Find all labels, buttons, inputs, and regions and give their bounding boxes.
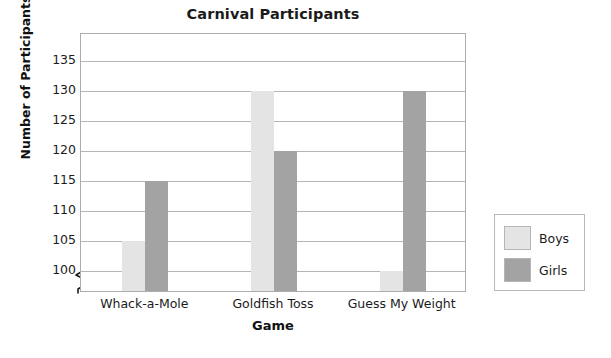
bar-girls-2 [403, 91, 426, 292]
plot-area [80, 33, 466, 292]
legend-item-girls: Girls [504, 258, 567, 282]
y-tick-label: 100 [42, 264, 76, 277]
bar-girls-1 [274, 151, 297, 292]
y-tick-label: 130 [42, 84, 76, 97]
bar-boys-1 [251, 91, 274, 292]
legend-swatch-girls [504, 258, 531, 282]
bar-girls-0 [145, 181, 168, 292]
x-tick-label: Goldfish Toss [232, 296, 313, 311]
gridline [81, 61, 465, 62]
bar-chart: Carnival Participants Number of Particip… [0, 0, 611, 358]
y-axis-title: Number of Participants [18, 0, 33, 173]
bar-boys-2 [380, 271, 403, 292]
legend-label-boys: Boys [539, 231, 569, 246]
x-axis-tick-labels: Whack-a-MoleGoldfish TossGuess My Weight [80, 296, 466, 316]
y-tick-label: 125 [42, 114, 76, 127]
y-axis-tick-labels: 100105110115120125130135 [36, 33, 76, 292]
legend-item-boys: Boys [504, 226, 569, 250]
x-axis-title: Game [80, 318, 466, 333]
bar-boys-0 [122, 241, 145, 292]
x-tick-label: Whack-a-Mole [100, 296, 188, 311]
y-tick-label: 115 [42, 174, 76, 187]
y-tick-label: 110 [42, 204, 76, 217]
legend-swatch-boys [504, 226, 531, 250]
legend: Boys Girls [494, 214, 585, 291]
legend-label-girls: Girls [539, 263, 567, 278]
chart-title: Carnival Participants [80, 6, 466, 22]
y-tick-label: 105 [42, 234, 76, 247]
y-tick-label: 120 [42, 144, 76, 157]
y-tick-label: 135 [42, 54, 76, 67]
x-tick-label: Guess My Weight [348, 296, 456, 311]
